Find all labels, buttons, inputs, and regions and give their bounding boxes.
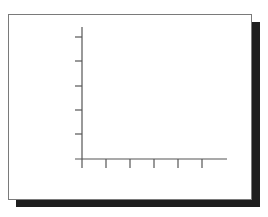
y-axis-ticks xyxy=(75,37,82,134)
x-axis-ticks xyxy=(106,159,202,168)
chart-axes xyxy=(0,0,268,217)
